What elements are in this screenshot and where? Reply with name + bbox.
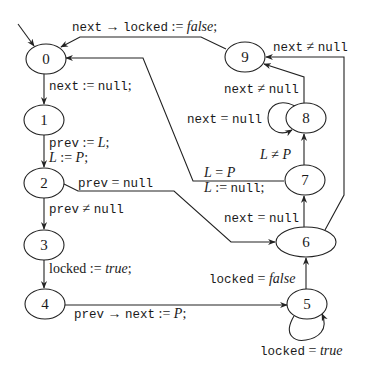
svg-text:4: 4 [41, 296, 49, 312]
svg-text:3: 3 [40, 237, 48, 253]
node-4: 4 [25, 289, 65, 319]
svg-text:9: 9 [241, 49, 249, 65]
svg-text:8: 8 [302, 110, 310, 126]
node-9: 9 [225, 42, 265, 72]
node-3: 3 [24, 230, 64, 260]
state-diagram: 0 1 2 3 4 5 6 7 8 9 next → locked := fal… [0, 0, 366, 374]
node-8: 8 [286, 103, 326, 133]
svg-text:6: 6 [302, 234, 310, 250]
label-6-9: next ≠ null [273, 39, 348, 55]
node-1: 1 [24, 105, 64, 135]
label-1-2-line2: L := P; [48, 150, 88, 165]
label-6-7: next = null [224, 210, 299, 226]
node-7: 7 [285, 165, 325, 195]
label-4-5: prev → next := P; [74, 306, 186, 322]
label-2-3: prev ≠ null [49, 201, 124, 217]
label-3-4: locked := true; [49, 261, 132, 276]
label-1-2-line1: prev := L; [49, 135, 110, 151]
svg-text:7: 7 [301, 172, 309, 188]
label-2-6: prev = null [78, 175, 153, 191]
node-0: 0 [26, 44, 66, 74]
node-2: 2 [24, 168, 64, 198]
node-5: 5 [287, 289, 327, 319]
label-5-5: locked = true [260, 343, 342, 359]
edge-start-0 [18, 24, 34, 46]
label-8-9: next ≠ null [224, 81, 299, 97]
edge-9-0 [61, 37, 226, 49]
svg-text:5: 5 [303, 296, 311, 312]
label-7-0-line1: L = P [203, 165, 236, 180]
label-7-0-line2: L := null; [203, 180, 265, 196]
svg-text:2: 2 [40, 175, 48, 191]
label-8-8: next = null [187, 111, 262, 127]
svg-text:0: 0 [42, 51, 50, 67]
node-6: 6 [276, 227, 336, 257]
label-5-6: locked = false [209, 271, 295, 287]
label-9-0: next → locked := false; [72, 19, 217, 35]
svg-text:1: 1 [40, 112, 48, 128]
label-7-8: L ≠ P [259, 147, 291, 162]
label-0-1: next := null; [49, 78, 132, 94]
